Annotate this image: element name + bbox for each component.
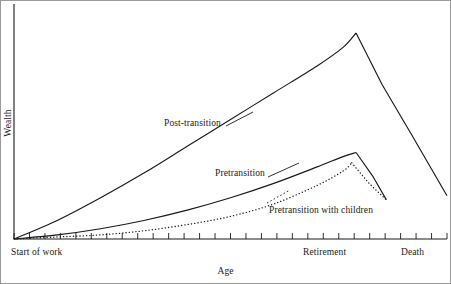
figure-border (1, 1, 451, 284)
x-axis-label: Age (0, 266, 451, 276)
series-path-pretransition-rising (14, 152, 356, 239)
x-tick-label-death: Death (401, 247, 424, 257)
x-axis-ticks (14, 233, 447, 239)
series-label-pretransition: Pretransition (215, 168, 265, 178)
annotation-leader-lines (226, 112, 299, 203)
chart-canvas (0, 0, 451, 284)
leader-line-pretransition-children (267, 190, 290, 203)
series-path-pretransition-with-children-falling (352, 163, 387, 200)
axes (14, 4, 447, 239)
data-series-group (14, 33, 447, 239)
series-label-post-transition: Post-transition (164, 118, 221, 128)
chart-figure: Wealth Age Start of work Retirement Deat… (0, 0, 451, 284)
series-path-pretransition-falling (356, 152, 386, 199)
x-tick-label-retirement: Retirement (303, 247, 346, 257)
series-label-pretransition-with-children: Pretransition with children (269, 205, 373, 215)
x-tick-label-start-of-work: Start of work (11, 247, 62, 257)
leader-line-pretransition (268, 163, 299, 177)
y-axis-label: Wealth (3, 98, 13, 148)
series-path-pretransition-with-children-rising (14, 163, 352, 239)
